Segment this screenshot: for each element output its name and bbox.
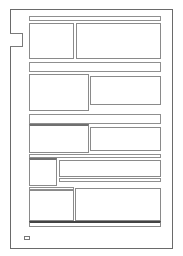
side-tab[interactable] xyxy=(10,33,23,47)
content-block-row-3-left xyxy=(29,124,89,153)
footer-bar xyxy=(29,221,161,227)
section-header-row-3 xyxy=(29,114,161,124)
content-strip-row-4 xyxy=(59,178,161,182)
content-block-row-4-left xyxy=(29,158,57,186)
section-header-row-2 xyxy=(29,62,161,72)
content-block-row-5-right xyxy=(75,188,161,221)
content-block-row-2-right xyxy=(90,76,161,105)
footer-icon[interactable] xyxy=(24,236,30,240)
content-block-row-4-right xyxy=(59,160,161,177)
content-block-row-5-left xyxy=(29,190,74,221)
content-block-row-3-right xyxy=(90,127,161,151)
section-header-row-1 xyxy=(29,16,161,21)
content-block-row-2-left xyxy=(29,74,89,111)
content-block-row-1-left xyxy=(29,23,74,59)
content-block-row-1-right xyxy=(76,23,161,59)
